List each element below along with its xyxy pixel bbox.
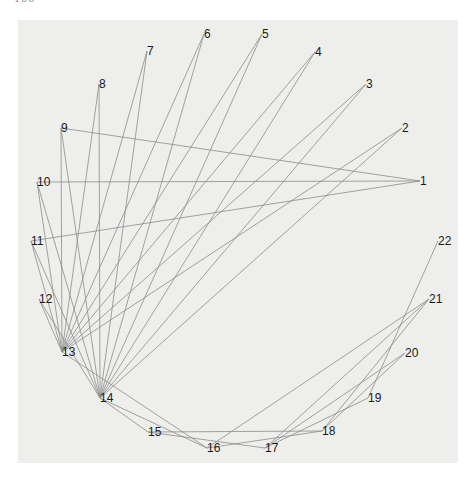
- edge-8-14: [99, 84, 100, 398]
- node-label-6: 6: [204, 27, 211, 41]
- node-label-layer: 12345678910111213141516171819202122: [31, 27, 452, 455]
- edge-1-10: [37, 181, 420, 182]
- edge-15-18: [148, 431, 322, 432]
- node-label-5: 5: [262, 27, 269, 41]
- edge-13-16: [62, 352, 207, 448]
- edge-2-14: [100, 128, 402, 398]
- edge-7-13: [62, 51, 147, 352]
- edge-1-9: [61, 128, 420, 181]
- node-label-2: 2: [402, 121, 409, 135]
- node-label-11: 11: [31, 234, 44, 248]
- edge-18-21: [322, 299, 429, 431]
- node-label-10: 10: [37, 175, 51, 189]
- node-label-19: 19: [368, 391, 382, 405]
- edge-17-21: [265, 299, 429, 448]
- node-label-15: 15: [148, 425, 162, 439]
- edge-18-20: [322, 353, 405, 431]
- node-label-20: 20: [405, 346, 419, 360]
- edge-14-16: [100, 398, 207, 448]
- node-label-8: 8: [99, 77, 106, 91]
- node-label-4: 4: [315, 45, 322, 59]
- edge-6-14: [100, 34, 204, 398]
- node-label-21: 21: [429, 292, 443, 306]
- edge-2-13: [62, 128, 402, 352]
- node-label-16: 16: [207, 441, 221, 455]
- node-label-7: 7: [147, 44, 154, 58]
- edge-6-13: [62, 34, 204, 352]
- edge-3-13: [62, 84, 366, 352]
- edge-16-21: [207, 299, 429, 448]
- node-label-18: 18: [322, 424, 336, 438]
- edge-10-13: [37, 182, 62, 352]
- node-label-22: 22: [438, 234, 452, 248]
- network-graph: 12345678910111213141516171819202122: [0, 0, 476, 481]
- edge-layer: [31, 34, 438, 448]
- edge-1-11: [31, 181, 420, 241]
- edge-12-13: [39, 299, 62, 352]
- node-label-3: 3: [366, 77, 373, 91]
- edge-9-13: [61, 128, 62, 352]
- edge-3-14: [100, 84, 366, 398]
- node-label-13: 13: [62, 345, 76, 359]
- edge-17-19: [265, 398, 368, 448]
- node-label-9: 9: [61, 121, 68, 135]
- edge-5-13: [62, 34, 262, 352]
- node-label-17: 17: [265, 441, 279, 455]
- node-label-12: 12: [39, 292, 53, 306]
- edge-19-22: [368, 241, 438, 398]
- node-label-1: 1: [420, 174, 427, 188]
- edge-10-14: [37, 182, 100, 398]
- node-label-14: 14: [100, 391, 114, 405]
